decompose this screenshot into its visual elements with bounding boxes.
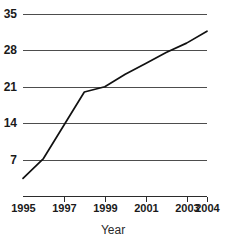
line-chart: 714212835 199519971999200120032004 Year: [0, 0, 225, 245]
y-axis-tick-label: 21: [4, 80, 18, 94]
x-axis-tick-labels: 199519971999200120032004: [11, 202, 220, 214]
y-axis-tick-label: 35: [4, 7, 18, 21]
x-axis-tick-label: 2004: [195, 202, 220, 214]
x-axis-tick-marks: [65, 197, 208, 202]
y-axis-tick-label: 14: [4, 116, 18, 130]
x-axis-title: Year: [101, 223, 125, 237]
y-axis-tick-label: 28: [4, 43, 18, 57]
gridlines: [23, 15, 207, 161]
y-axis-tick-label: 7: [10, 153, 17, 167]
x-axis-tick-label: 2001: [134, 202, 158, 214]
y-axis-tick-labels: 714212835: [4, 7, 18, 167]
x-axis-tick-label: 1997: [52, 202, 76, 214]
x-axis-tick-label: 1995: [11, 202, 35, 214]
data-series-line: [23, 31, 207, 178]
x-axis-tick-label: 1999: [93, 202, 117, 214]
chart-canvas: 714212835 199519971999200120032004 Year: [0, 0, 225, 245]
